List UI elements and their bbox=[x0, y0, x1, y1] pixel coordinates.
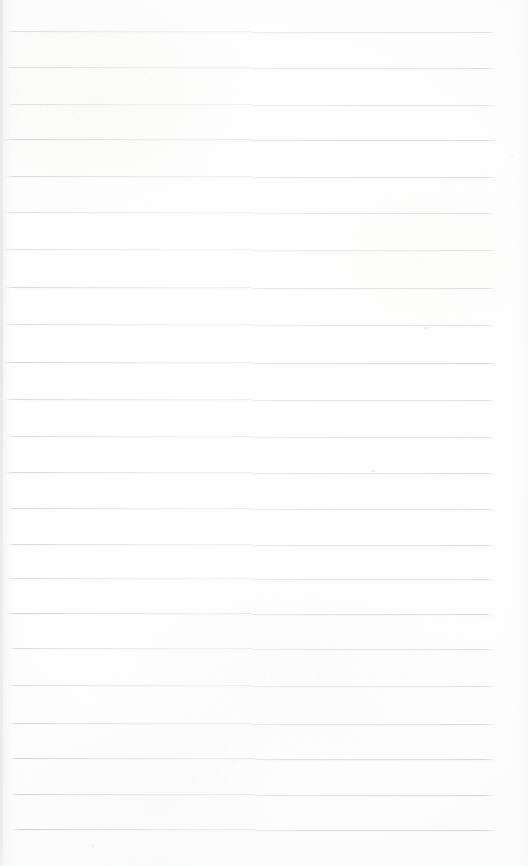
scan-tint-overlay bbox=[0, 0, 528, 866]
scanned-page bbox=[0, 0, 528, 866]
